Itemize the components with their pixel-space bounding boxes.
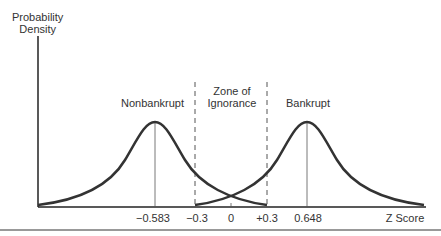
y-axis-label: Probability Density bbox=[12, 11, 63, 35]
chart-canvas bbox=[0, 0, 441, 236]
nonbankrupt-label: Nonbankrupt bbox=[121, 97, 184, 109]
zone-label-line2: Ignorance bbox=[204, 97, 260, 109]
nonbankrupt-curve bbox=[38, 122, 267, 205]
tick-label: 0.648 bbox=[294, 212, 322, 224]
y-axis-label-line2: Density bbox=[12, 23, 63, 35]
tick-label: +0.3 bbox=[256, 212, 278, 224]
x-axis-label: Z Score bbox=[386, 212, 425, 224]
tick-label: 0 bbox=[228, 212, 234, 224]
tick-label: −0.3 bbox=[186, 212, 208, 224]
bankrupt-label: Bankrupt bbox=[286, 97, 330, 109]
tick-label: −0.583 bbox=[136, 212, 170, 224]
bankrupt-curve bbox=[195, 122, 424, 205]
y-axis-label-line1: Probability bbox=[12, 11, 63, 23]
zone-label-line1: Zone of bbox=[204, 85, 260, 97]
zone-of-ignorance-label: Zone of Ignorance bbox=[204, 85, 260, 109]
